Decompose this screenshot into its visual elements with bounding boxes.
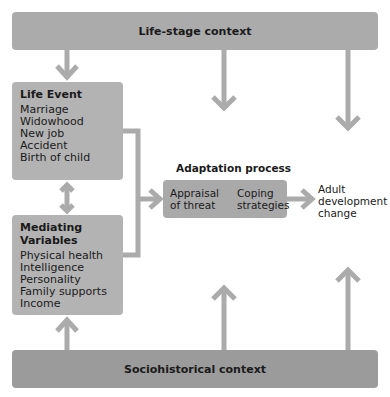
appraisal-line2: of threat [170,199,219,211]
life-event-box: Life Event Marriage Widowhood New job Ac… [12,82,123,180]
life-event-item: Birth of child [20,152,115,164]
adaptation-process-title: Adaptation process [176,162,291,174]
outcome-line1: Adult [318,183,387,195]
mediating-title-line2: Variables [20,234,115,247]
adult-development-change: Adult development change [318,183,387,219]
life-stage-context-label: Life-stage context [139,25,252,38]
life-stage-context-bar: Life-stage context [12,12,378,50]
sociohistorical-context-label: Sociohistorical context [124,363,266,376]
outcome-line2: development [318,195,387,207]
sociohistorical-context-bar: Sociohistorical context [12,350,378,388]
coping-strategies: Coping strategies [237,187,289,211]
life-event-title: Life Event [20,88,115,101]
outcome-line3: change [318,207,387,219]
appraisal-line1: Appraisal [170,187,219,199]
mediating-item: Income [20,298,115,310]
mediating-title-line1: Mediating [20,221,115,234]
appraisal-of-threat: Appraisal of threat [170,187,219,211]
coping-line1: Coping [237,187,289,199]
coping-line2: strategies [237,199,289,211]
mediating-variables-box: Mediating Variables Physical health Inte… [12,215,123,315]
